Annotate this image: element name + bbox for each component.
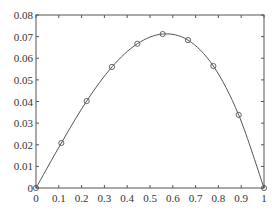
x-tick-label: 0.6 bbox=[166, 192, 180, 204]
x-tick-label: 0.5 bbox=[143, 192, 157, 204]
series-line bbox=[36, 34, 264, 188]
data-series bbox=[33, 31, 266, 190]
y-axis: 00.010.020.030.040.050.060.070.08 bbox=[14, 9, 264, 194]
y-tick-label: 0 bbox=[28, 182, 34, 194]
y-tick-label: 0.03 bbox=[14, 117, 34, 129]
y-tick-label: 0.04 bbox=[14, 96, 34, 108]
x-tick-label: 0.2 bbox=[75, 192, 89, 204]
x-tick-label: 1 bbox=[261, 192, 267, 204]
plot-area bbox=[36, 15, 264, 188]
line-chart: 00.10.20.30.40.50.60.70.80.91 00.010.020… bbox=[0, 0, 272, 211]
x-tick-label: 0.9 bbox=[234, 192, 248, 204]
y-tick-label: 0.01 bbox=[14, 160, 33, 172]
y-tick-label: 0.08 bbox=[14, 9, 34, 21]
x-tick-label: 0.1 bbox=[52, 192, 66, 204]
x-tick-label: 0.4 bbox=[120, 192, 134, 204]
plot-frame bbox=[36, 15, 264, 188]
y-tick-label: 0.05 bbox=[14, 74, 34, 86]
x-tick-label: 0 bbox=[33, 192, 39, 204]
y-tick-label: 0.07 bbox=[14, 31, 34, 43]
x-tick-label: 0.3 bbox=[98, 192, 112, 204]
y-tick-label: 0.02 bbox=[14, 139, 33, 151]
y-tick-label: 0.06 bbox=[14, 52, 34, 64]
x-tick-label: 0.7 bbox=[189, 192, 203, 204]
x-tick-label: 0.8 bbox=[212, 192, 226, 204]
x-axis: 00.10.20.30.40.50.60.70.80.91 bbox=[33, 15, 267, 204]
